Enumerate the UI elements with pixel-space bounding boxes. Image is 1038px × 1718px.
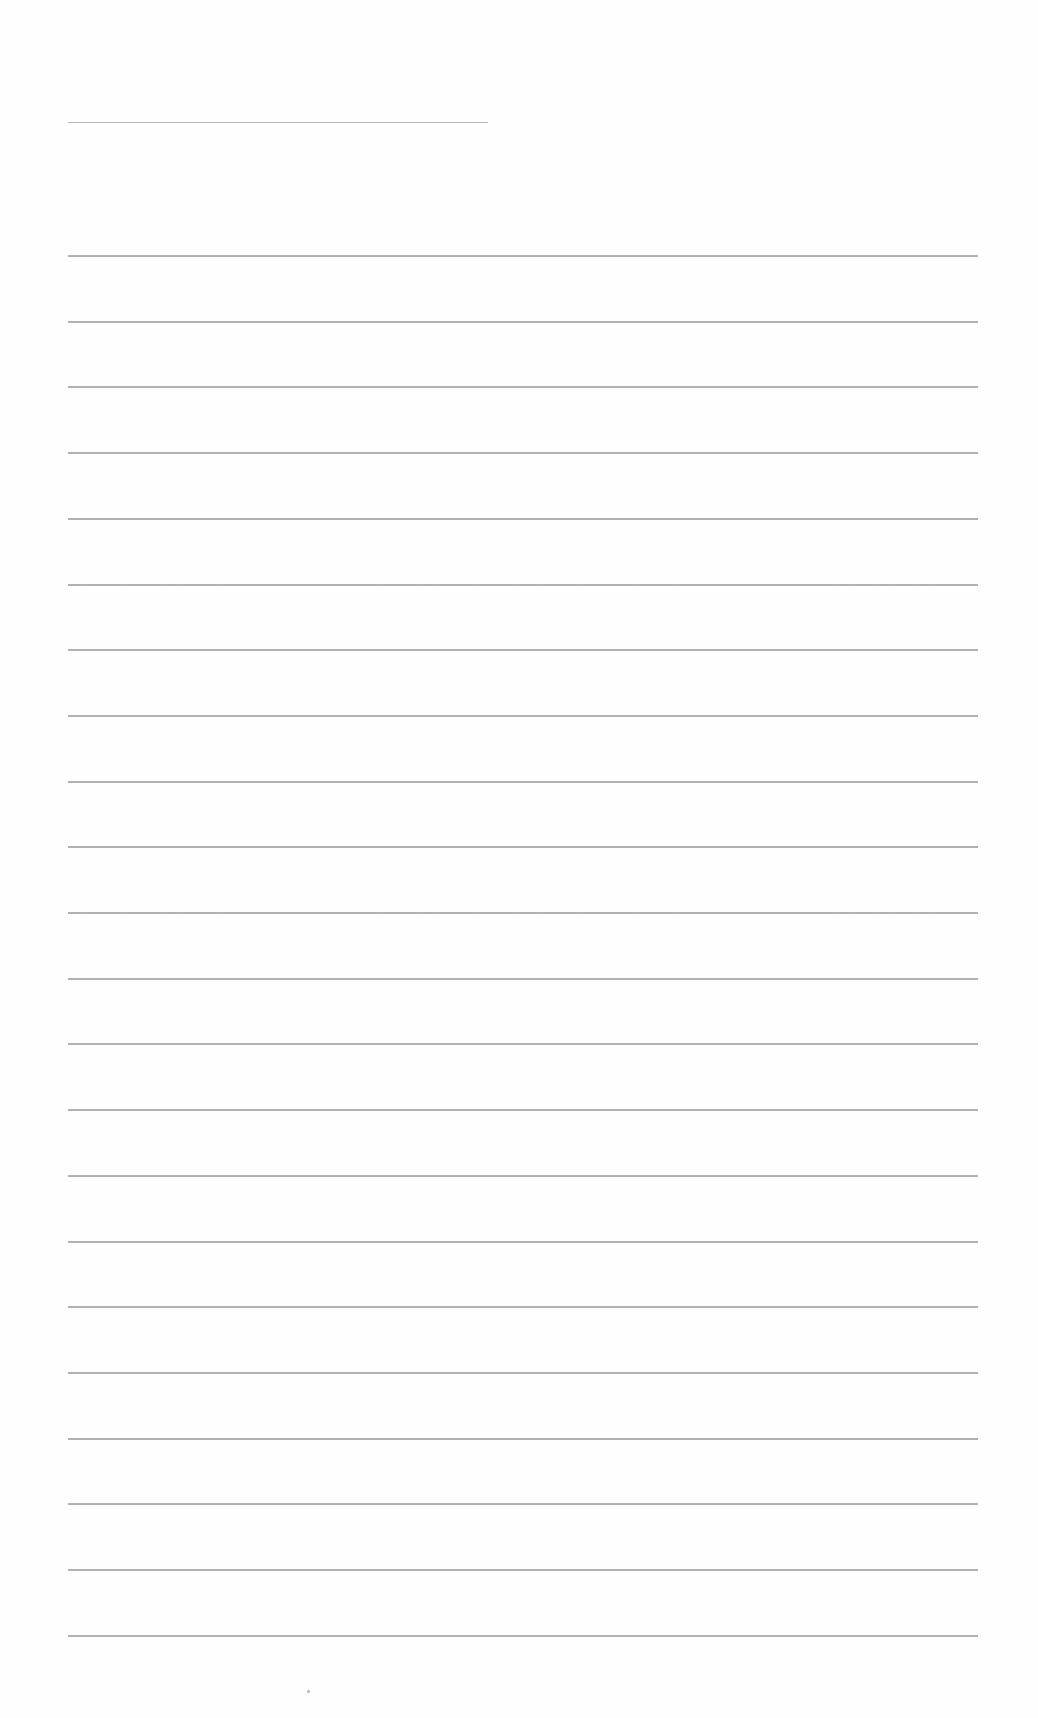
ruled-line: [68, 1372, 978, 1374]
ruled-line: [68, 452, 978, 454]
ruled-line: [68, 386, 978, 388]
ruled-line: [68, 1503, 978, 1505]
ruled-line: [68, 518, 978, 520]
ruled-line: [68, 584, 978, 586]
ruled-line: [68, 1043, 978, 1045]
lined-paper-page: [0, 0, 1038, 1718]
ruled-line: [68, 255, 978, 257]
ruled-line: [68, 649, 978, 651]
ruled-line: [68, 978, 978, 980]
ruled-line: [68, 1438, 978, 1440]
title-line: [68, 122, 488, 123]
footer-mark: [307, 1690, 310, 1693]
ruled-line: [68, 1635, 978, 1637]
ruled-line: [68, 1306, 978, 1308]
ruled-line: [68, 781, 978, 783]
ruled-line: [68, 1175, 978, 1177]
ruled-line: [68, 846, 978, 848]
ruled-line: [68, 715, 978, 717]
ruled-line: [68, 321, 978, 323]
ruled-line: [68, 1241, 978, 1243]
ruled-line: [68, 1569, 978, 1571]
ruled-line: [68, 1109, 978, 1111]
ruled-line: [68, 912, 978, 914]
